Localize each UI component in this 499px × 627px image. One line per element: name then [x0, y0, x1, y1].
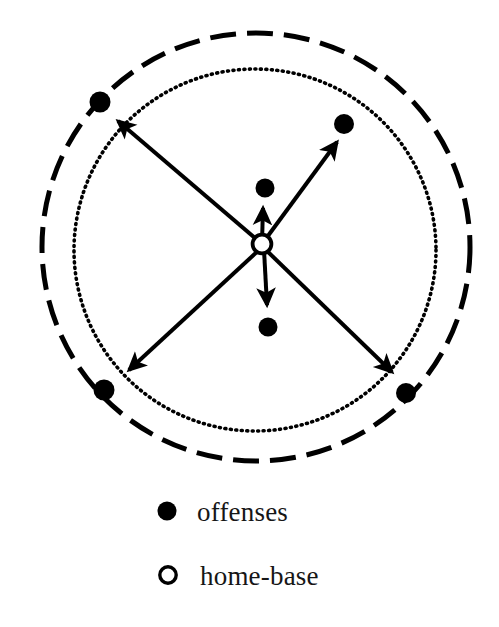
offense-point-sw — [94, 380, 115, 401]
legend-offenses-icon — [158, 502, 177, 521]
legend-home-base-label: home-base — [200, 561, 319, 591]
offense-point-nw — [90, 92, 111, 113]
offense-home-base-diagram: offenses home-base — [0, 0, 499, 627]
home-base-marker — [253, 235, 272, 254]
legend-home-base-icon — [160, 567, 176, 583]
offense-point-ne — [334, 114, 354, 134]
offense-point-inner-south — [259, 318, 278, 337]
legend-offenses-label: offenses — [197, 497, 288, 527]
offense-point-inner-north — [256, 179, 275, 198]
offense-point-se — [396, 383, 416, 403]
figure-root: offenses home-base — [0, 0, 499, 627]
